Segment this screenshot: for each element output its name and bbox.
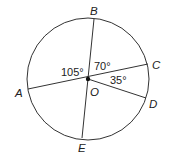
circle-diagram: A B C D E O 105° 70° 35° [0,0,171,163]
point-label-d: D [149,98,157,110]
angle-label-boc: 70° [94,60,111,72]
angle-label-aob: 105° [61,66,84,78]
point-label-e: E [78,142,86,154]
point-label-b: B [90,5,98,17]
point-label-a: A [14,87,23,99]
angle-label-cod: 35° [110,74,127,86]
segment-ac [28,64,148,89]
center-label-o: O [90,86,99,98]
point-label-c: C [152,59,161,71]
center-point [86,77,90,81]
